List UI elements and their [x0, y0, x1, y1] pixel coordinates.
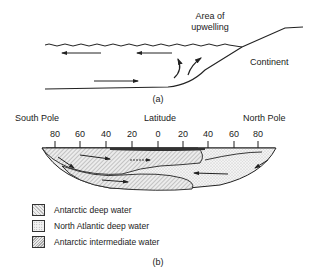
cross-hatched-swatch-icon: [32, 236, 45, 248]
label-south-pole: South Pole: [15, 113, 59, 123]
tick-label: 60: [75, 129, 85, 139]
tick-label: 80: [253, 129, 263, 139]
legend-item-antarctic-intermediate-water: Antarctic intermediate water: [32, 235, 159, 248]
legend-label: North Atlantic deep water: [54, 221, 149, 231]
label-latitude: Latitude: [144, 113, 176, 123]
stippled-swatch-icon: [32, 220, 45, 232]
upwelling-arrow-1: [174, 59, 180, 78]
legend-label: Antarctic deep water: [54, 205, 131, 215]
tick-label: 60: [229, 129, 239, 139]
panel-b-cross-section: [42, 141, 276, 190]
label-continent: Continent: [250, 57, 289, 67]
tick-label: 40: [203, 129, 213, 139]
label-area-of: Area of: [195, 11, 224, 21]
legend-item-north-atlantic-deep-water: North Atlantic deep water: [32, 219, 149, 232]
hatched-swatch-icon: [32, 204, 45, 216]
label-upwelling: upwelling: [191, 22, 229, 32]
tick-label: 80: [50, 129, 60, 139]
legend-item-antarctic-deep-water: Antarctic deep water: [32, 203, 131, 216]
tick-label: 20: [127, 129, 137, 139]
sea-surface-line: [45, 44, 242, 47]
upwelling-arrow-2: [188, 58, 201, 75]
tick-label: 40: [101, 129, 111, 139]
caption-a: (a): [153, 94, 164, 104]
tick-label: 0: [155, 129, 160, 139]
label-north-pole: North Pole: [243, 113, 286, 123]
legend-label: Antarctic intermediate water: [54, 237, 159, 247]
caption-b: (b): [153, 257, 164, 267]
tick-label: 20: [178, 129, 188, 139]
